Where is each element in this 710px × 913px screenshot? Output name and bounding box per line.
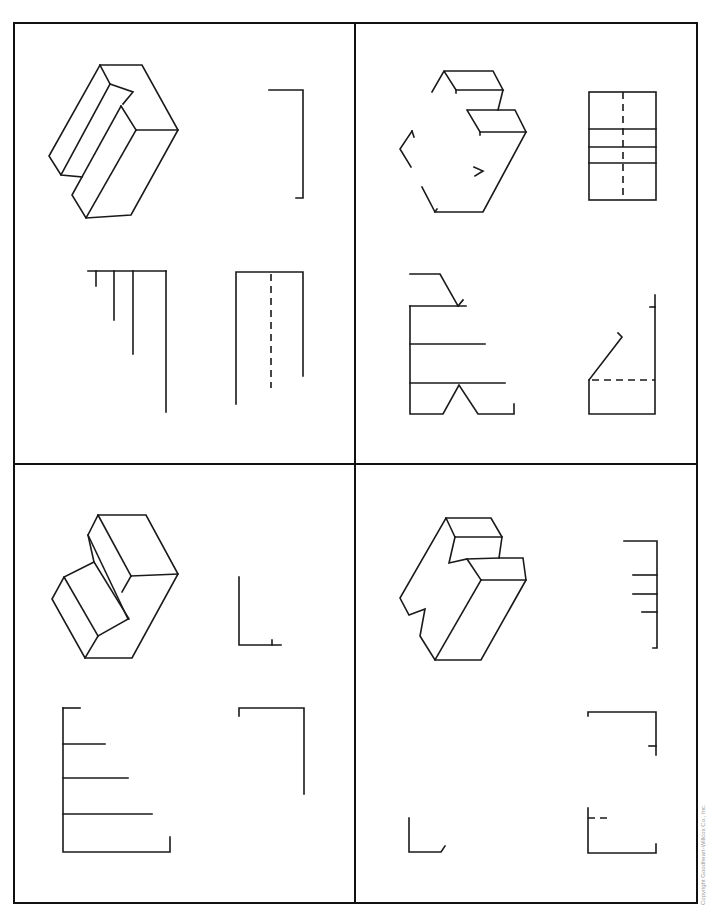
partial-view-hidden-line — [588, 808, 656, 853]
partial-view-stepped — [63, 708, 170, 852]
panel-bottom-left — [52, 515, 304, 852]
drawing-canvas — [0, 0, 710, 913]
incomplete-view-hidden-line — [589, 295, 655, 414]
partial-view-ticks — [624, 541, 657, 648]
panel-top-right — [400, 71, 656, 414]
isometric-offset-step-block — [52, 515, 178, 658]
isometric-notched-block — [49, 65, 178, 218]
panel-bottom-right — [400, 518, 657, 853]
partial-view-bracket — [588, 712, 656, 755]
partial-view-rectangle-hidden-line — [236, 272, 303, 404]
copyright-notice: Copyright Goodheart-Willcox Co., Inc. — [700, 804, 706, 905]
panel-top-left — [49, 65, 303, 412]
worksheet: Copyright Goodheart-Willcox Co., Inc. — [0, 0, 710, 913]
isometric-double-notched-block — [400, 518, 526, 660]
isometric-stepped-block-incomplete — [400, 71, 526, 212]
worksheet-frame — [14, 23, 697, 903]
partial-view-L — [239, 577, 281, 645]
incomplete-view-angled-edge — [410, 274, 514, 414]
complete-view-with-centerline — [589, 92, 656, 200]
partial-view-stepped-lines — [88, 271, 166, 412]
partial-view-bracket — [269, 90, 303, 198]
partial-view-L-small — [409, 818, 445, 852]
partial-view-bracket-right — [239, 708, 304, 794]
